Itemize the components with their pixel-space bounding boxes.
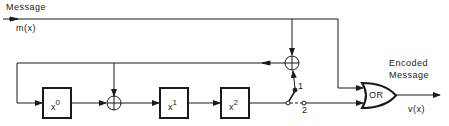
switch-pos1-label: 1 <box>298 82 303 91</box>
switch-arm[interactable] <box>289 91 295 101</box>
encoder-diagram <box>0 0 449 126</box>
input-signal-label: m(x) <box>16 24 36 33</box>
encoded-label-line2: Message <box>389 71 429 80</box>
loop-left-line <box>17 63 42 103</box>
register-x1-label: x1 <box>168 100 177 112</box>
switch-pivot-icon <box>286 101 290 105</box>
encoded-label-line1: Encoded <box>389 59 428 68</box>
output-signal-label: v(x) <box>408 105 425 114</box>
or-gate-label: OR <box>369 91 384 100</box>
message-input-arrow-icon <box>10 17 18 21</box>
switch-pos2-label: 2 <box>302 106 307 115</box>
message-label: Message <box>6 3 46 12</box>
register-x2-label: x2 <box>229 100 238 112</box>
register-x0-label: x0 <box>51 100 60 112</box>
message-to-or-line <box>338 19 363 88</box>
